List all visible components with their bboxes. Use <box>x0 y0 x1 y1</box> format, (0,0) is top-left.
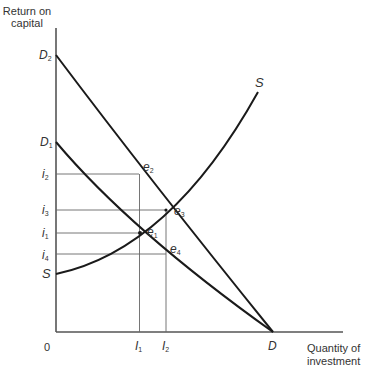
y-axis-title: Return on capital <box>2 5 52 29</box>
demand-curve-d1 <box>56 142 273 332</box>
demand-curve-d2 <box>56 55 273 332</box>
origin-label: 0 <box>44 341 50 353</box>
supply-curve-s <box>56 92 258 274</box>
x-axis-title: Quantity of investment <box>307 342 360 368</box>
label-e4: e4 <box>170 243 181 259</box>
label-d1: D1 <box>40 136 53 152</box>
label-I2: I2 <box>162 340 169 356</box>
x-axis-title-line2: investment <box>307 355 360 368</box>
diagram-canvas <box>0 0 383 380</box>
x-axis-title-line1: Quantity of <box>307 342 360 355</box>
label-i4: i4 <box>42 249 49 265</box>
label-e1: e1 <box>147 226 158 242</box>
label-d2: D2 <box>39 49 52 65</box>
label-I1: I1 <box>135 340 142 356</box>
label-d: D <box>268 340 277 352</box>
label-i1: i1 <box>42 227 49 243</box>
point-e1-dot <box>138 231 142 235</box>
label-s-axis: S <box>42 268 51 280</box>
y-axis-title-line2: capital <box>2 17 52 29</box>
y-axis-title-line1: Return on <box>2 5 52 17</box>
label-i3: i3 <box>42 204 49 220</box>
label-s-curve: S <box>255 77 264 89</box>
label-e3: e3 <box>174 205 185 221</box>
label-e2: e2 <box>143 161 154 177</box>
point-e3-dot <box>164 208 167 211</box>
label-i2: i2 <box>42 168 49 184</box>
